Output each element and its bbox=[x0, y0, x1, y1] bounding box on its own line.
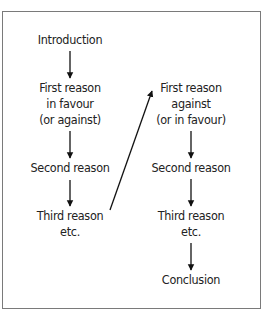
arrow-diagonal-icon bbox=[110, 91, 152, 210]
arrows-layer bbox=[0, 0, 274, 319]
